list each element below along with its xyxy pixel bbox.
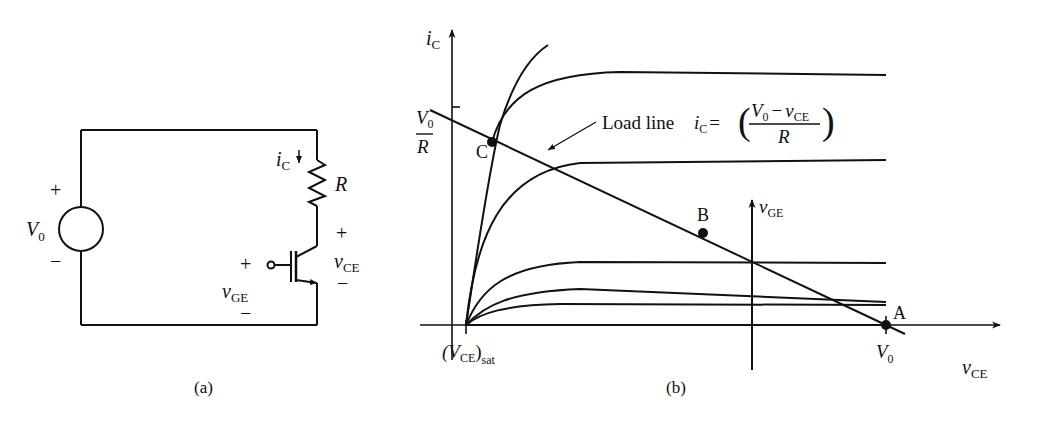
caption-a: (a)	[194, 378, 213, 397]
point-b	[698, 228, 708, 238]
caption-b: (b)	[666, 378, 686, 397]
vge-minus: −	[240, 302, 251, 324]
load-line	[430, 110, 905, 334]
x-intercept-label: V0	[876, 341, 894, 366]
load-line-pointer-arrow	[548, 122, 596, 150]
equation-right-paren: )	[822, 100, 835, 143]
point-c-label: C	[476, 142, 488, 162]
equation-left-paren: (	[738, 100, 751, 143]
vce-plus: +	[336, 222, 347, 244]
current-label: iC	[276, 148, 290, 173]
point-c	[487, 137, 497, 147]
voltage-source-icon	[59, 207, 103, 251]
igbt-transistor-icon	[268, 246, 318, 325]
characteristics-chart	[420, 30, 1000, 370]
circuit-labels: + − V0 iC R + vCE − + vGE − (a)	[26, 148, 360, 397]
figure-canvas: + − V0 iC R + vCE − + vGE − (a)	[0, 0, 1044, 427]
x-axis-label: vCE	[962, 356, 988, 381]
vge-plus: +	[240, 253, 251, 275]
equation-numerator: V0−vCE	[751, 100, 809, 124]
source-label: V0	[26, 218, 45, 244]
point-a	[881, 320, 891, 330]
resistor-label: R	[334, 173, 347, 195]
vge-arrow-label: vGE	[759, 196, 783, 220]
resistor-icon	[309, 160, 325, 206]
point-a-label: A	[893, 303, 906, 323]
source-minus: −	[50, 250, 61, 272]
equation-lhs: iC=	[694, 112, 720, 136]
curve-vge-5	[466, 304, 886, 325]
source-plus: +	[50, 179, 61, 201]
vce-minus: −	[337, 272, 348, 294]
y-axis-label: iC	[426, 27, 440, 52]
point-b-label: B	[697, 205, 709, 225]
equation-denominator: R	[777, 126, 790, 147]
y-intercept-denominator: R	[416, 136, 429, 157]
vce-sat-label: (VCE)sat	[442, 341, 496, 367]
chart-labels: iC vCE V0 R (VCE)sat V0 C B A Load line …	[416, 27, 988, 397]
load-line-label: Load line	[602, 112, 674, 133]
